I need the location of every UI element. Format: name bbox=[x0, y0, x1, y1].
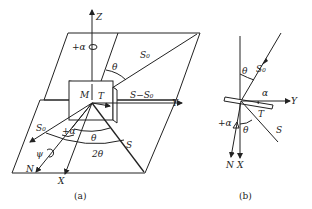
s-diffracted-ray bbox=[92, 103, 144, 172]
crystal-face bbox=[69, 81, 113, 120]
s0-label-b: S₀ bbox=[256, 64, 266, 74]
rotation-alpha-label: +α bbox=[72, 42, 86, 52]
theta-arc-bottom bbox=[74, 128, 110, 131]
theta-top-label-b: θ bbox=[242, 66, 248, 76]
s-label: S bbox=[126, 140, 132, 150]
crystal-slab-b bbox=[224, 97, 273, 109]
crystal-side bbox=[113, 87, 117, 123]
figure-a-caption: (a) bbox=[74, 191, 86, 201]
theta-arc-bottom-b bbox=[240, 120, 252, 124]
n-label-b: N bbox=[225, 160, 235, 170]
alpha-arc-b bbox=[258, 101, 259, 104]
two-theta-arc bbox=[46, 133, 124, 144]
y-axis-label: Y bbox=[172, 98, 179, 108]
s0-top-label: S₀ bbox=[140, 50, 150, 60]
psi-rotation-icon bbox=[47, 149, 54, 157]
theta-top-label: θ bbox=[112, 62, 118, 72]
figure-b-caption: (b) bbox=[239, 191, 252, 201]
s0-left-label: S₀ bbox=[36, 123, 46, 133]
s-label-b: S bbox=[276, 125, 282, 135]
t-label-b: T bbox=[258, 109, 265, 119]
x-axis-label: X bbox=[57, 176, 65, 186]
plane-divider bbox=[100, 33, 118, 84]
figure-b: θ S₀ Y α T S θ +α N X (b) bbox=[218, 33, 298, 201]
z-axis-label: Z bbox=[95, 12, 103, 22]
plus-alpha-label-b: +α bbox=[218, 118, 232, 128]
t-label: T bbox=[98, 91, 105, 101]
theta-bottom-label-b: θ bbox=[243, 125, 249, 135]
y-axis-label-b: Y bbox=[291, 96, 298, 106]
alpha-label-b: α bbox=[262, 88, 268, 98]
upper-plane bbox=[44, 33, 200, 100]
diffraction-geometry-diagram: Z +α S₀ θ M T S−S₀ Y S₀ +α θ bbox=[0, 0, 312, 209]
psi-label: ψ bbox=[36, 149, 44, 159]
two-theta-label: 2θ bbox=[91, 149, 104, 159]
s-minus-s0-label: S−S₀ bbox=[130, 90, 154, 100]
theta-bottom-label: θ bbox=[91, 133, 97, 143]
plus-alpha-label: +α bbox=[62, 126, 76, 136]
n-label: N bbox=[25, 164, 35, 174]
rotation-alpha-icon bbox=[89, 45, 97, 50]
figure-a: Z +α S₀ θ M T S−S₀ Y S₀ +α θ bbox=[12, 10, 200, 201]
m-label: M bbox=[79, 90, 90, 100]
x-axis-label-b: X bbox=[236, 160, 244, 170]
